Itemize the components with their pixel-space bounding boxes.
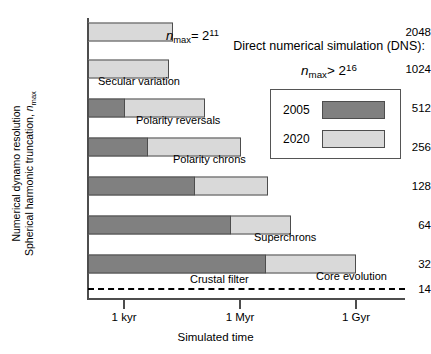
x-axis-line [87,298,405,300]
x-tick-1-myr [239,300,241,309]
legend-swatch-2020 [322,130,385,148]
y-axis-title-line1: Numerical dynamo resolution [10,106,22,242]
dns-note-line1: Direct numerical simulation (DNS): [233,39,425,53]
x-axis-title: Simulated time [0,331,431,343]
y-axis-title-line2-subscript: max [29,91,38,105]
dns-nmax-relation: > 2 [327,63,346,78]
chart-figure: Numerical dynamo resolution Spherical ha… [0,0,431,354]
dns-nmax-symbol: n [301,63,309,78]
x-tick-label-1-myr: 1 Myr [226,311,255,323]
bar-256-segment-2005 [88,138,148,157]
x-tick-label-1-kyr: 1 kyr [112,311,137,323]
bar-2048-segment-2020 [88,23,173,42]
bar-128 [88,177,268,196]
nmax-subscript: max [173,35,191,45]
y-axis-title-line2: Spherical harmonic truncation, nmax [23,44,39,304]
bar-512-segment-2005 [88,99,125,118]
bar-128-segment-2005 [88,177,195,196]
nmax-relation: = 2 [191,28,209,43]
nmax-2048-annotation: nmax= 211 [166,28,219,45]
legend-label-2005: 2005 [283,103,317,117]
bar-64-segment-2005 [88,216,231,235]
legend-swatch-2005 [322,101,385,119]
dns-note: Direct numerical simulation (DNS): nmax>… [227,36,431,85]
nmax-exponent: 11 [209,28,219,38]
bar-32-segment-2005 [88,255,266,274]
dns-nmax-subscript: max [309,69,327,80]
x-tick-1-gyr [355,300,357,309]
y-tick-label-128: 128 [349,180,431,192]
y-axis-title: Numerical dynamo resolution Spherical ha… [10,44,39,304]
y-axis-title-line2-symbol: n [23,105,35,111]
x-tick-1-kyr [123,300,125,309]
annotation-superchrons: Superchrons [254,231,316,243]
legend-row-2020: 2020 [283,130,385,148]
legend-row-2005: 2005 [283,101,385,119]
legend-box: 2005 2020 [270,89,401,159]
legend-label-2020: 2020 [283,132,317,146]
bar-128-segment-2020 [194,177,268,196]
dns-nmax-exponent: 16 [346,62,357,73]
y-tick-label-32: 32 [349,258,431,270]
y-axis-title-line2-prefix: Spherical harmonic truncation, [23,111,35,256]
annotation-core-evolution: Core evolution [316,270,387,282]
annotation-crustal-filter: Crustal filter [190,273,249,285]
annotation-polarity-chrons: Polarity chrons [173,153,246,165]
annotation-polarity-reversals: Polarity reversals [136,114,220,126]
bar-2048 [88,23,173,42]
y-tick-label-64: 64 [349,219,431,231]
crustal-filter-dashed-line [88,288,405,290]
dns-note-line2: nmax> 216 [227,57,431,85]
x-tick-label-1-gyr: 1 Gyr [342,311,370,323]
annotation-secular-variation: Secular variation [98,75,180,87]
